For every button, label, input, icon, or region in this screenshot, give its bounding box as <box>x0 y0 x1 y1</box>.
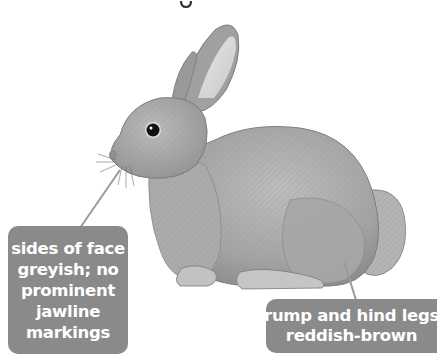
callout-rump-line-1: rump and hind legs <box>264 306 437 326</box>
callout-face-markings: sides of face greyish; no prominent jawl… <box>8 226 128 354</box>
callout-rump-color: rump and hind legs reddish-brown <box>266 299 437 353</box>
callout-face-line-4: jawline <box>36 301 100 322</box>
callout-face-line-2: greyish; no <box>17 259 118 280</box>
pointer-face <box>80 170 120 228</box>
callout-face-line-1: sides of face <box>11 238 125 259</box>
callout-rump-line-2: reddish-brown <box>286 326 417 346</box>
callout-face-line-5: markings <box>26 322 110 343</box>
callout-face-line-3: prominent <box>21 280 115 301</box>
